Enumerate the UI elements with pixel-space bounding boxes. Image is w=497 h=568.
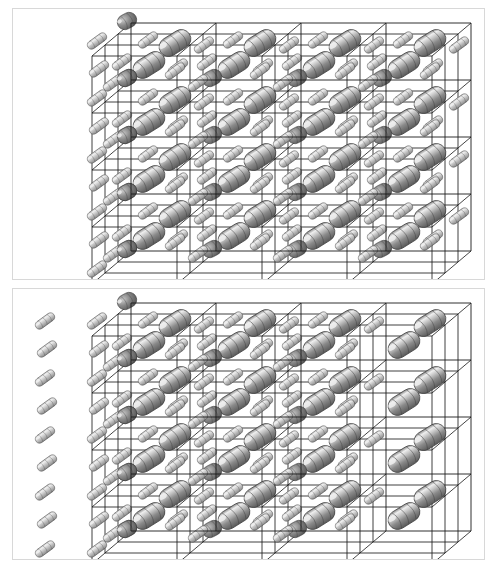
- rod-body: [448, 149, 471, 169]
- rod-body: [34, 482, 57, 502]
- rod-body: [366, 166, 389, 186]
- rod-body: [392, 30, 415, 50]
- rod-body: [111, 389, 134, 409]
- rod-body: [196, 52, 219, 72]
- figure-root: Crystal lattice packing diagrams Two sta…: [0, 0, 497, 568]
- lattice-diagram-bottom: [13, 289, 484, 559]
- rod-body: [392, 87, 415, 107]
- lattice-panel-bottom: [12, 288, 485, 560]
- molecule-rod-small: [222, 30, 245, 50]
- molecule-rod-small: [137, 87, 160, 107]
- rod-body: [111, 223, 134, 243]
- outside-molecule-layer: [86, 31, 111, 279]
- rod-body: [281, 166, 304, 186]
- rod-body: [222, 424, 245, 444]
- molecule-rod-small: [196, 446, 219, 466]
- rod-body: [111, 109, 134, 129]
- molecule-rod-small-outside: [34, 482, 57, 502]
- molecule-rod-small-outside: [36, 396, 59, 416]
- molecule-node: [115, 10, 140, 33]
- rod-body: [137, 310, 160, 330]
- molecule-rod-small: [366, 52, 389, 72]
- rod-body: [281, 223, 304, 243]
- molecule-rod-small: [307, 424, 330, 444]
- lattice-diagram-top: [13, 9, 484, 279]
- molecule-rod-small: [307, 481, 330, 501]
- molecule-rod-small: [392, 87, 415, 107]
- molecule-rod-small: [222, 424, 245, 444]
- molecule-rod-small: [196, 166, 219, 186]
- rod-body: [111, 446, 134, 466]
- molecule-rod-small: [137, 481, 160, 501]
- molecule-rod-small: [281, 52, 304, 72]
- molecule-rod-small: [137, 201, 160, 221]
- rod-body: [281, 52, 304, 72]
- molecule-rod-small-outside: [88, 453, 111, 473]
- molecule-rod-small-outside: [88, 59, 111, 79]
- rod-body: [196, 223, 219, 243]
- molecule-node: [115, 290, 140, 313]
- lattice-panel-top: [12, 8, 485, 280]
- rod-body: [307, 424, 330, 444]
- molecule-rod-small: [137, 424, 160, 444]
- rod-body: [137, 201, 160, 221]
- molecule-rod-small: [196, 52, 219, 72]
- molecule-rod-small: [222, 310, 245, 330]
- molecule-rod-small: [111, 446, 134, 466]
- rod-body: [307, 310, 330, 330]
- molecule-rod-small-outside: [36, 339, 59, 359]
- rod-body: [88, 230, 111, 250]
- molecule-rod-small: [392, 144, 415, 164]
- rod-body: [222, 144, 245, 164]
- molecule-rod-small: [366, 223, 389, 243]
- molecule-rod-small: [137, 310, 160, 330]
- molecule-rod-small-outside: [88, 230, 111, 250]
- molecule-rod-small: [111, 332, 134, 352]
- rod-body: [281, 389, 304, 409]
- rod-body: [137, 144, 160, 164]
- rod-body: [88, 510, 111, 530]
- molecule-rod-small: [392, 201, 415, 221]
- molecule-rod-small-outside: [36, 453, 59, 473]
- molecule-rod-small: [111, 109, 134, 129]
- molecule-rod-small: [111, 223, 134, 243]
- molecule-rod-small: [448, 149, 471, 169]
- rod-body: [111, 332, 134, 352]
- rod-body: [137, 481, 160, 501]
- molecule-rod-small: [307, 310, 330, 330]
- rod-body: [36, 453, 59, 473]
- molecule-rod-small-outside: [34, 425, 57, 445]
- molecule-rod-small: [222, 481, 245, 501]
- rod-body: [222, 201, 245, 221]
- rod-body: [88, 396, 111, 416]
- molecule-rod-small-outside: [34, 539, 57, 559]
- rod-body: [137, 367, 160, 387]
- molecule-rod-small-outside: [36, 510, 59, 530]
- molecule-rod-small: [448, 206, 471, 226]
- molecule-rod-small: [281, 223, 304, 243]
- rod-body: [307, 30, 330, 50]
- molecule-rod-small: [222, 367, 245, 387]
- molecule-rod-small: [196, 109, 219, 129]
- molecule-rod-small: [222, 144, 245, 164]
- molecule-rod-small: [137, 367, 160, 387]
- rod-body: [366, 223, 389, 243]
- rod-body: [34, 539, 57, 559]
- rod-body: [196, 166, 219, 186]
- rod-body: [196, 332, 219, 352]
- molecule-rod-small: [111, 503, 134, 523]
- molecule-rod-small: [196, 332, 219, 352]
- molecule-rod-small: [366, 109, 389, 129]
- rod-body: [34, 368, 57, 388]
- rod-body: [88, 173, 111, 193]
- molecule-rod-small-outside: [88, 339, 111, 359]
- rod-body: [36, 510, 59, 530]
- molecule-rod-small: [448, 35, 471, 55]
- rod-body: [88, 116, 111, 136]
- molecule-rod-small-outside: [88, 116, 111, 136]
- molecule-rod-small: [281, 109, 304, 129]
- rod-body: [137, 424, 160, 444]
- molecule-rod-small-outside: [88, 173, 111, 193]
- rod-body: [281, 109, 304, 129]
- molecule-rod-small: [196, 389, 219, 409]
